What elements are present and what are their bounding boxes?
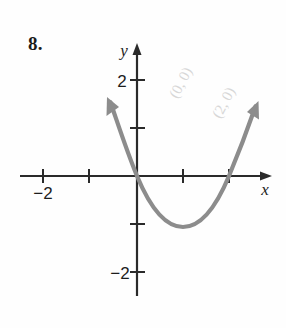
y-axis-arrowhead [133, 43, 142, 55]
graph-figure: −2 2 −2 y x (0, 0) (2, 0) [0, 0, 286, 328]
y-axis-label: y [118, 41, 128, 60]
parabola-curve [111, 103, 256, 228]
figure-container: 8. −2 2 −2 y x (0, 0) (2 [0, 0, 286, 328]
x-tick-label-neg2: −2 [33, 184, 52, 203]
y-tick-label-neg2: −2 [110, 264, 129, 283]
y-tick-label-pos2: 2 [117, 72, 126, 91]
annotation-point-origin: (0, 0) [166, 65, 196, 102]
annotation-point-two-zero: (2, 0) [209, 85, 239, 122]
x-axis-label: x [260, 180, 269, 199]
